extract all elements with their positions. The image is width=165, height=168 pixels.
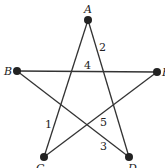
vertex-label-C: C bbox=[36, 162, 45, 168]
edge-AD bbox=[88, 20, 129, 157]
vertex-label-A: A bbox=[83, 3, 92, 16]
region-label-1: 1 bbox=[45, 118, 52, 131]
region-label-5: 5 bbox=[100, 116, 107, 129]
vertex-label-D: D bbox=[127, 162, 137, 168]
pentagram-canvas: ABECD12345 bbox=[0, 0, 165, 168]
vertex-A bbox=[84, 16, 92, 24]
vertex-label-B: B bbox=[3, 65, 12, 78]
region-label-4: 4 bbox=[84, 59, 91, 72]
edge-AC bbox=[44, 20, 88, 157]
pentagram-diagram: ABECD12345 bbox=[0, 0, 165, 168]
vertex-C bbox=[40, 153, 48, 161]
region-label-2: 2 bbox=[99, 41, 106, 54]
region-label-3: 3 bbox=[100, 140, 107, 153]
vertex-E bbox=[153, 68, 161, 76]
edge-BD bbox=[17, 71, 129, 157]
vertex-label-E: E bbox=[161, 66, 165, 79]
vertex-B bbox=[13, 67, 21, 75]
vertex-D bbox=[125, 153, 133, 161]
